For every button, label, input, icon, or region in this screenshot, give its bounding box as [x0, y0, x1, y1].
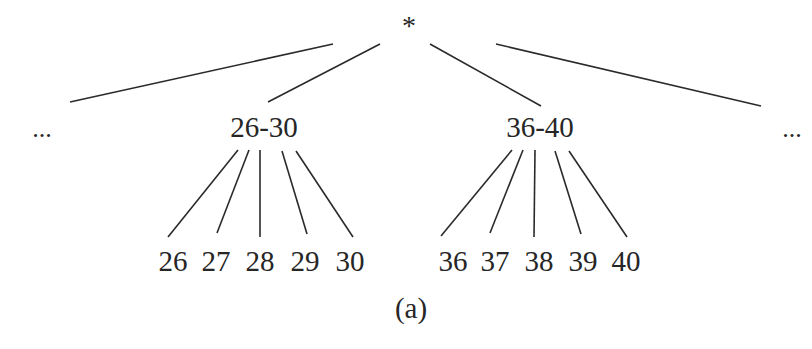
root-edges [70, 44, 761, 106]
tree-diagram: * ... 26-30 36-40 ... 26 27 28 29 30 36 … [0, 0, 812, 349]
edge-root-ellipsis-left [70, 44, 333, 102]
leaf-30: 30 [336, 245, 365, 277]
root-node: * [402, 10, 416, 41]
node-36-40: 36-40 [506, 111, 574, 143]
edges-26-30 [168, 150, 353, 237]
node-26-30: 26-30 [230, 111, 298, 143]
leaf-37: 37 [481, 245, 510, 277]
leaf-39: 39 [569, 245, 598, 277]
edge-27 [217, 150, 249, 233]
edge-38 [534, 150, 535, 237]
edge-37 [490, 150, 523, 233]
edges-36-40 [441, 150, 627, 237]
edge-29 [282, 151, 307, 234]
leaves-36-40: 36 37 38 39 40 [439, 245, 641, 277]
leaf-40: 40 [612, 245, 641, 277]
ellipsis-left: ... [32, 114, 52, 143]
leaf-29: 29 [291, 245, 320, 277]
edge-root-26-30 [268, 44, 380, 102]
edge-36 [441, 150, 512, 236]
edge-26 [168, 150, 238, 237]
leaf-38: 38 [525, 245, 554, 277]
ellipsis-right: ... [782, 114, 802, 143]
leaves-26-30: 26 27 28 29 30 [159, 245, 365, 277]
leaf-27: 27 [202, 245, 231, 277]
edge-root-36-40 [430, 44, 541, 106]
leaf-28: 28 [246, 245, 275, 277]
edge-root-ellipsis-right [496, 44, 761, 106]
figure-caption: (a) [395, 292, 427, 325]
leaf-36: 36 [439, 245, 468, 277]
leaf-26: 26 [159, 245, 188, 277]
